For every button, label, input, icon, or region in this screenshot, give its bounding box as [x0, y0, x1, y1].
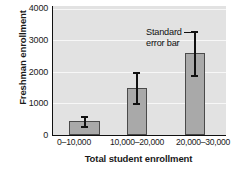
error-bar-cap-bottom-0-10000	[81, 126, 88, 128]
y-tick-label-3000: 3000	[8, 36, 48, 45]
y-tick-label-4000: 4000	[8, 4, 48, 13]
plot-area	[52, 6, 226, 136]
annotation-leader-line	[184, 32, 195, 33]
x-tick-label-0-10000: 0–10,000	[45, 137, 103, 147]
error-bar-cap-top-10000-20000	[133, 72, 140, 74]
bar-chart-figure: Freshman enrollment 4000 3000 2000 1000 …	[0, 0, 237, 169]
x-tick-label-10000-20000: 10,000–20,000	[103, 137, 171, 147]
error-bar-cap-bottom-10000-20000	[133, 103, 140, 105]
y-tick-label-0: 0	[8, 131, 48, 140]
annotation-line-2: error bar	[146, 38, 182, 49]
error-bar-line-10000-20000	[136, 72, 138, 104]
gridline-3000	[53, 40, 226, 41]
error-bar-line-20000-30000	[194, 31, 196, 76]
error-bar-cap-top-0-10000	[81, 116, 88, 118]
error-bar-cap-bottom-20000-30000	[191, 75, 198, 77]
standard-error-bar-annotation: Standard error bar	[146, 27, 182, 49]
x-tick-label-20000-30000: 20,000–30,000	[169, 137, 237, 147]
gridline-4000	[53, 9, 226, 10]
annotation-line-1: Standard	[146, 27, 182, 38]
y-tick-label-1000: 1000	[8, 99, 48, 108]
x-axis-title: Total student enrollment	[52, 153, 225, 164]
y-tick-label-2000: 2000	[8, 68, 48, 77]
